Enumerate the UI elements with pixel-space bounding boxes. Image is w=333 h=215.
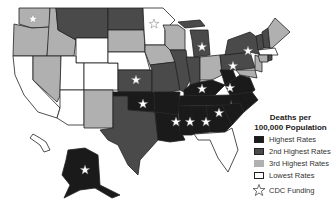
state-alaska xyxy=(62,148,120,198)
legend-item-cdc-funding: CDC Funding xyxy=(248,185,333,196)
state-wisconsin xyxy=(163,25,185,50)
state-new-mexico xyxy=(84,90,113,128)
swatch-lowest xyxy=(254,172,264,179)
state-michigan xyxy=(190,30,210,57)
swatch-highest xyxy=(254,136,264,143)
state-ohio xyxy=(200,55,222,80)
legend-item-highest: Highest Rates xyxy=(248,134,333,145)
state-oregon xyxy=(13,24,50,56)
legend-item-second: 2nd Highest Rates xyxy=(248,146,333,157)
state-wyoming xyxy=(76,38,108,63)
state-south-dakota xyxy=(108,30,145,52)
legend-title: Deaths per 100,000 Population xyxy=(248,113,333,133)
state-hawaii xyxy=(30,134,50,152)
state-michigan-up xyxy=(178,20,205,28)
swatch-third xyxy=(254,160,264,167)
state-tennessee xyxy=(178,95,232,106)
state-rhode-island xyxy=(268,55,272,61)
state-colorado xyxy=(84,63,118,90)
state-arizona xyxy=(57,90,84,125)
legend: Deaths per 100,000 Population Highest Ra… xyxy=(248,113,333,196)
state-maine xyxy=(268,18,290,48)
legend-item-third: 3rd Highest Rates xyxy=(248,158,333,169)
state-connecticut xyxy=(258,55,268,62)
legend-item-lowest: Lowest Rates xyxy=(248,170,333,181)
swatch-second xyxy=(254,148,264,155)
star-outline-icon xyxy=(252,184,266,197)
state-north-dakota xyxy=(108,8,144,30)
state-arkansas xyxy=(154,92,180,115)
state-florida xyxy=(194,128,238,172)
